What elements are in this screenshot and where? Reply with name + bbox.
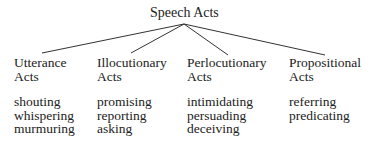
example-list: promising reporting asking <box>97 95 167 136</box>
category-label: Propositional Acts <box>289 56 361 83</box>
node-utterance-acts: Utterance Acts shouting whispering murmu… <box>14 56 75 136</box>
edge-illocutionary <box>131 24 184 53</box>
example-item: predicating <box>289 109 361 123</box>
example-item: intimidating <box>187 95 266 109</box>
category-label: Utterance Acts <box>14 56 75 83</box>
example-item: deceiving <box>187 122 266 136</box>
example-item: reporting <box>97 109 167 123</box>
example-list: shouting whispering murmuring <box>14 95 75 136</box>
category-label: Perlocutionary Acts <box>187 56 266 83</box>
category-label: Illocutionary Acts <box>97 56 167 83</box>
example-item: persuading <box>187 109 266 123</box>
example-item: murmuring <box>14 122 75 136</box>
example-item: whispering <box>14 109 75 123</box>
node-propositional-acts: Propositional Acts referring predicating <box>289 56 361 122</box>
node-illocutionary-acts: Illocutionary Acts promising reporting a… <box>97 56 167 136</box>
example-item: shouting <box>14 95 75 109</box>
example-item: referring <box>289 95 361 109</box>
example-list: referring predicating <box>289 95 361 122</box>
example-item: promising <box>97 95 167 109</box>
example-list: intimidating persuading deceiving <box>187 95 266 136</box>
example-item: asking <box>97 122 167 136</box>
node-perlocutionary-acts: Perlocutionary Acts intimidating persuad… <box>187 56 266 136</box>
edge-utterance <box>42 24 184 53</box>
